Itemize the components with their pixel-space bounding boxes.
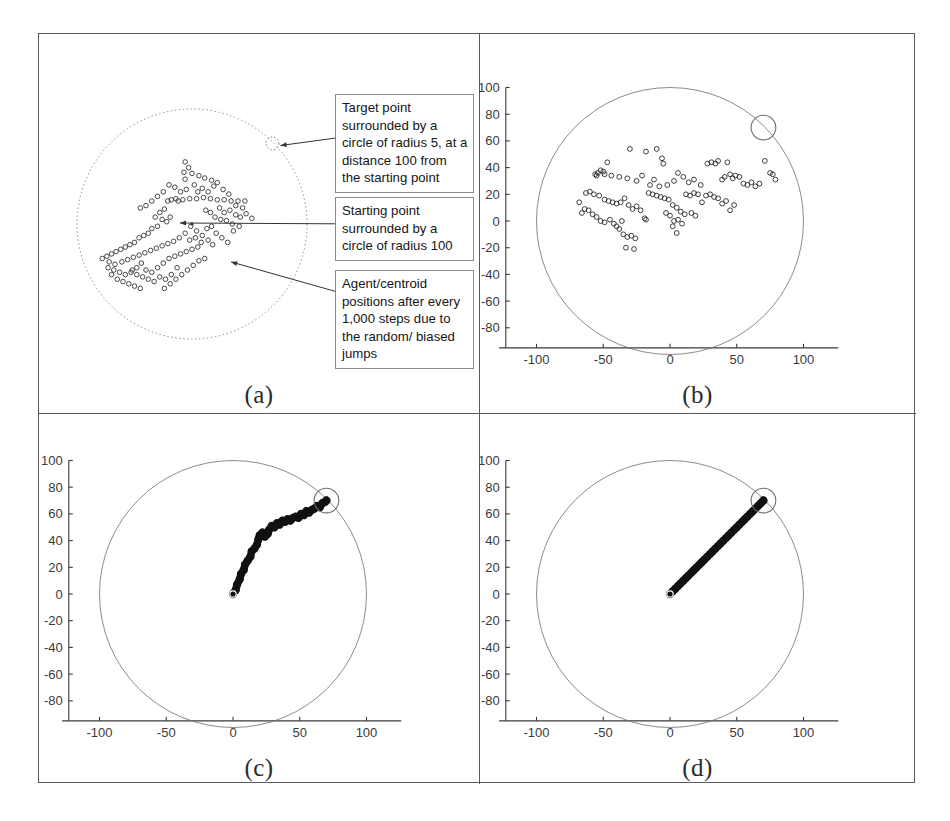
agent-position-marker xyxy=(138,206,143,211)
agent-position-marker xyxy=(634,204,639,209)
x-axis-tick-label: -50 xyxy=(594,352,613,367)
y-axis-tick-label: -80 xyxy=(44,693,63,708)
agent-position-marker xyxy=(196,245,201,250)
agent-position-marker xyxy=(670,224,675,229)
agent-position-marker xyxy=(225,240,230,245)
agent-position-marker xyxy=(205,226,210,231)
panel-label-c: (c) xyxy=(39,754,479,782)
agent-position-marker xyxy=(665,183,670,188)
agent-position-marker xyxy=(115,277,120,282)
agent-position-marker xyxy=(680,221,685,226)
agent-position-marker xyxy=(166,241,171,246)
x-axis-tick-label: -50 xyxy=(594,725,613,740)
agent-position-marker xyxy=(146,231,151,236)
agent-position-marker xyxy=(184,249,189,254)
agent-position-marker xyxy=(160,217,165,222)
x-axis-tick-label: 100 xyxy=(793,725,815,740)
callout-target-point: Target point surrounded by a circle of r… xyxy=(335,94,474,193)
agent-position-marker xyxy=(209,178,214,183)
agent-position-marker xyxy=(692,177,697,182)
agent-position-marker xyxy=(238,215,243,220)
agent-position-marker xyxy=(121,279,126,284)
agent-position-marker xyxy=(168,282,173,287)
agent-position-marker xyxy=(132,240,137,245)
agent-position-marker xyxy=(204,208,209,213)
agent-position-marker xyxy=(135,265,140,270)
agent-position-marker xyxy=(622,196,627,201)
agent-position-marker xyxy=(209,224,214,229)
agent-position-marker xyxy=(617,175,622,180)
x-axis-tick-label: 50 xyxy=(730,725,744,740)
agent-position-marker xyxy=(197,259,202,264)
agent-position-marker xyxy=(674,231,679,236)
y-axis-tick-label: 40 xyxy=(485,533,499,548)
agent-position-marker xyxy=(161,261,166,266)
agent-position-marker xyxy=(577,200,582,205)
agent-position-marker xyxy=(194,229,199,234)
agent-position-marker xyxy=(137,253,142,258)
panel-a-random-walk-scatter: Target point surrounded by a circle of r… xyxy=(39,34,479,413)
x-axis-tick-label: 0 xyxy=(666,352,673,367)
y-axis-tick-label: -20 xyxy=(44,613,63,628)
agent-position-marker xyxy=(214,231,219,236)
x-axis-tick-label: -100 xyxy=(86,725,112,740)
agent-position-marker xyxy=(652,177,657,182)
agent-position-marker xyxy=(100,256,105,261)
agent-position-marker xyxy=(177,236,182,241)
agent-position-marker xyxy=(193,236,198,241)
agent-position-marker xyxy=(237,224,242,229)
y-axis-tick-label: 100 xyxy=(41,453,63,468)
y-axis-tick-label: -60 xyxy=(481,667,500,682)
agent-position-marker xyxy=(201,195,206,200)
agent-position-marker xyxy=(638,208,643,213)
agent-trajectory-path xyxy=(670,501,763,595)
agent-position-marker xyxy=(206,190,211,195)
panel-label-d: (d) xyxy=(479,754,916,782)
x-axis-tick-label: 50 xyxy=(730,352,744,367)
agent-position-marker xyxy=(107,260,112,265)
agent-position-marker xyxy=(109,272,114,277)
agent-position-marker xyxy=(173,254,178,259)
agent-position-marker xyxy=(632,247,637,252)
agent-position-marker xyxy=(117,270,122,275)
agent-position-marker xyxy=(127,282,132,287)
panel-c-biased-walk-plot: -100-50050100100806040200-20-40-60-80 (c… xyxy=(39,413,479,784)
agent-position-marker xyxy=(106,265,111,270)
agent-position-marker xyxy=(243,199,248,204)
agent-position-marker xyxy=(640,173,645,178)
agent-position-marker xyxy=(698,183,703,188)
y-axis-tick-label: 100 xyxy=(479,453,500,468)
y-axis-tick-label: -20 xyxy=(481,240,500,255)
agent-position-marker xyxy=(150,226,155,231)
agent-position-marker xyxy=(682,212,687,217)
agent-position-marker xyxy=(617,227,622,232)
agent-position-marker xyxy=(179,272,184,277)
agent-position-marker xyxy=(657,184,662,189)
agent-position-marker xyxy=(158,210,163,215)
agent-position-marker xyxy=(200,186,205,191)
y-axis-tick-label: -20 xyxy=(481,613,500,628)
agent-position-marker xyxy=(757,181,762,186)
agent-position-marker xyxy=(183,177,188,182)
agent-position-marker xyxy=(138,286,143,291)
agent-position-marker xyxy=(187,196,192,201)
callout-starting-point: Starting point surrounded by a circle of… xyxy=(335,197,474,261)
agent-position-marker xyxy=(125,257,130,262)
y-axis-tick-label: 60 xyxy=(485,506,499,521)
callout-agent-positions: Agent/centroid positions after every 1,0… xyxy=(335,270,474,369)
agent-position-marker xyxy=(197,173,202,178)
x-axis-tick-label: 100 xyxy=(356,725,378,740)
agent-position-marker xyxy=(190,247,195,252)
agent-position-marker xyxy=(250,216,255,221)
agent-position-marker xyxy=(185,268,190,273)
agent-position-marker xyxy=(236,199,241,204)
agent-position-marker xyxy=(676,171,681,176)
y-axis-tick-label: -40 xyxy=(481,267,500,282)
agent-position-marker xyxy=(171,239,176,244)
agent-position-marker xyxy=(158,275,163,280)
agent-position-marker xyxy=(773,177,778,182)
agent-position-marker xyxy=(128,242,133,247)
agent-position-marker xyxy=(625,176,630,181)
y-axis-tick-label: 20 xyxy=(48,560,62,575)
y-axis-tick-label: 100 xyxy=(479,80,500,95)
